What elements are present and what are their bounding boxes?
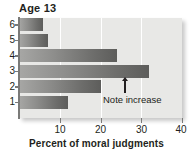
- x-tick-label-30: 30: [132, 124, 152, 135]
- x-tick-30: [141, 118, 142, 123]
- bar-category-6: [19, 18, 43, 31]
- y-tick-label-1: 1: [1, 97, 15, 107]
- x-tick-20: [101, 118, 102, 123]
- x-tick-label-10: 10: [50, 124, 70, 135]
- bar-category-4: [19, 49, 117, 62]
- x-axis-title: Percent of moral judgments: [0, 138, 193, 149]
- chart-title: Age 13: [19, 2, 56, 14]
- y-tick-label-4: 4: [1, 51, 15, 61]
- y-tick-label-2: 2: [1, 82, 15, 92]
- annotation-note-increase: Note increase: [103, 94, 162, 105]
- y-tick-2: [15, 86, 19, 88]
- annotation-arrow-icon: [124, 80, 126, 93]
- y-tick-3: [15, 71, 19, 73]
- y-tick-5: [15, 40, 19, 42]
- x-tick-label-20: 20: [91, 124, 111, 135]
- y-tick-label-3: 3: [1, 66, 15, 76]
- y-tick-label-6: 6: [1, 20, 15, 30]
- bar-category-5: [19, 34, 48, 47]
- bar-category-1: [19, 96, 68, 109]
- bar-category-3: [19, 65, 149, 78]
- y-tick-6: [15, 24, 19, 26]
- y-tick-label-5: 5: [1, 35, 15, 45]
- y-tick-4: [15, 55, 19, 57]
- y-axis-spine: [18, 17, 20, 119]
- bar-chart: Age 13 6 5 4 3 2 1 10: [0, 0, 193, 156]
- x-tick-label-40: 40: [171, 124, 191, 135]
- bar-category-2: [19, 80, 101, 93]
- y-tick-1: [15, 102, 19, 104]
- x-tick-10: [60, 118, 61, 123]
- x-tick-40: [182, 118, 183, 123]
